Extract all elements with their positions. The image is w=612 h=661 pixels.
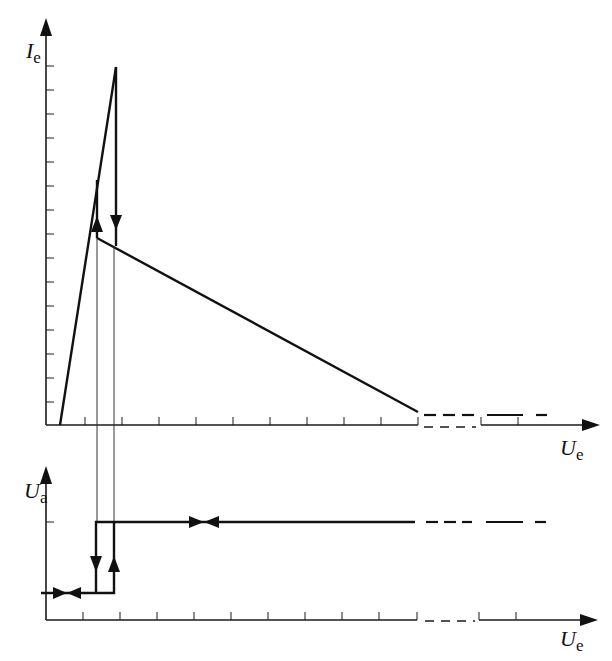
upper-y-ticks bbox=[46, 66, 54, 402]
upper-y-axis-label: Ie bbox=[25, 38, 41, 67]
down-arrow-icon bbox=[90, 556, 102, 572]
right-arrow-icon bbox=[189, 516, 204, 528]
upper-y-axis-arrow-icon bbox=[40, 18, 52, 36]
high-level-line bbox=[96, 522, 415, 593]
lower-x-axis-arrow-icon bbox=[580, 614, 598, 626]
left-arrow-icon bbox=[204, 516, 219, 528]
lower-plot: Ua Ue bbox=[24, 466, 598, 655]
upper-x-axis-arrow-icon bbox=[582, 419, 600, 431]
upper-x-ticks bbox=[85, 417, 518, 425]
up-arrow-icon bbox=[108, 556, 120, 572]
upper-x-axis-label: Ue bbox=[560, 435, 583, 464]
lower-x-ticks bbox=[83, 612, 516, 620]
lower-y-axis-arrow-icon bbox=[40, 466, 52, 484]
rising-branch bbox=[60, 67, 116, 425]
lower-x-axis-label: Ue bbox=[560, 626, 583, 655]
low-level-line bbox=[41, 522, 114, 593]
upper-plot: Ie Ue bbox=[25, 18, 600, 522]
down-arrow-icon bbox=[110, 215, 122, 230]
hysteresis-diagram: Ie Ue bbox=[0, 0, 612, 661]
falling-branch bbox=[97, 238, 418, 412]
left-arrow-icon bbox=[67, 587, 81, 599]
right-arrow-icon bbox=[53, 587, 67, 599]
